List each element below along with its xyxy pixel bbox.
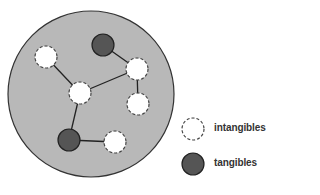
legend-intangibles-label: intangibles	[214, 122, 266, 133]
legend-tangible-icon	[182, 153, 204, 175]
intangible-node	[69, 82, 91, 104]
legend-intangible-icon	[182, 118, 204, 140]
legend-tangibles-label: tangibles	[214, 157, 257, 168]
intangible-node	[127, 93, 149, 115]
legend	[182, 118, 204, 175]
intangible-node	[104, 131, 126, 153]
tangible-node	[58, 129, 80, 151]
tangible-node	[92, 34, 114, 56]
intangible-node	[126, 58, 148, 80]
intangible-node	[35, 46, 57, 68]
